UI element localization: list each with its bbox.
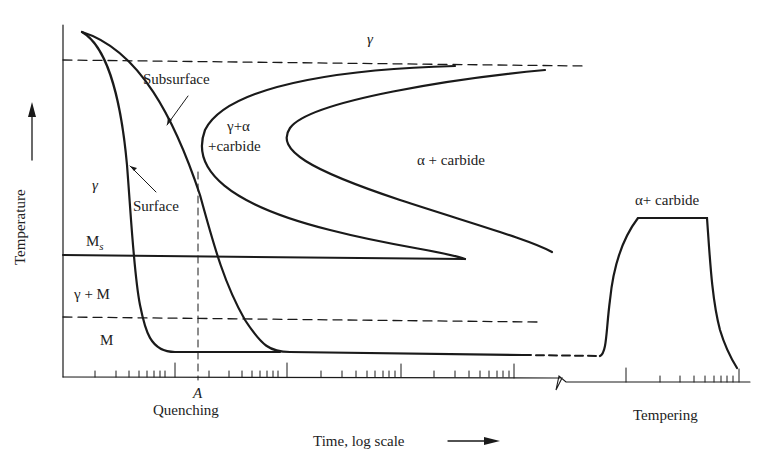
ms-subscript: s <box>99 240 103 252</box>
region-gamma-alpha: γ+α <box>227 119 250 134</box>
region-ms: Ms <box>86 234 104 252</box>
diagram-canvas <box>0 0 770 468</box>
y-axis-label: Temperature <box>12 189 29 265</box>
ms-line <box>63 255 465 259</box>
mf-dashed-line <box>63 317 537 322</box>
region-gamma-left: γ <box>92 178 98 193</box>
tempering-region-label: α+ carbide <box>635 193 699 208</box>
x-axis-label: Time, log scale <box>313 434 405 449</box>
surface-label: Surface <box>133 199 179 214</box>
region-carbide-line2: +carbide <box>208 139 261 154</box>
x-marker-a: A <box>193 386 202 401</box>
time-arrow-icon <box>484 437 500 445</box>
region-gamma-top: γ <box>367 32 373 47</box>
tempering-label: Tempering <box>633 408 698 423</box>
tempering-curve <box>600 218 737 368</box>
region-m: M <box>100 333 113 348</box>
temperature-arrow-icon <box>28 102 36 117</box>
ms-label: M <box>86 233 99 249</box>
quenching-label: Quenching <box>153 403 219 418</box>
upper-critical-dashed-line <box>63 60 585 66</box>
subsurface-label: Subsurface <box>143 72 210 87</box>
region-alpha-carbide: α + carbide <box>417 153 485 168</box>
x-axis <box>63 376 750 390</box>
connector-dashed-line <box>523 355 600 356</box>
x-axis-ticks <box>95 363 739 382</box>
region-gamma-m: γ + M <box>74 287 110 302</box>
